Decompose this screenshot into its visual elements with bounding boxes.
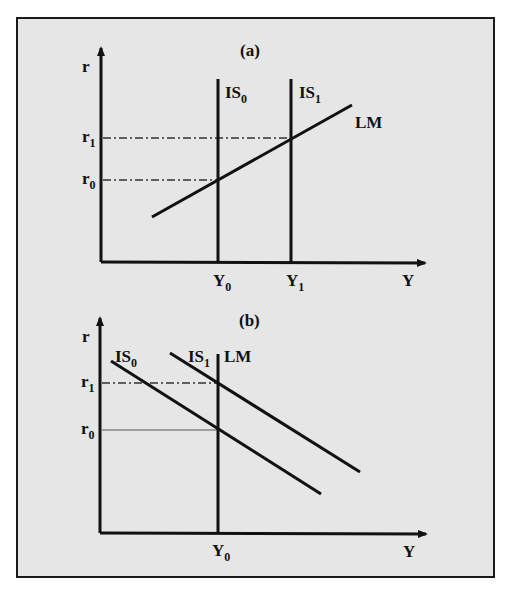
- panel-b-title: (b): [239, 311, 260, 330]
- panel-a-lm-curve: [152, 105, 352, 217]
- panel-a-x-axis: [101, 262, 425, 263]
- panel-b: (b) r Y IS0 IS1 LM r1 r0 Y0: [81, 311, 426, 564]
- panel-a-r1-label: r1: [82, 127, 96, 150]
- panel-a-y0-label: Y0: [213, 271, 231, 294]
- panel-b-is1-curve: [170, 353, 360, 472]
- panel-b-y-axis-label: r: [82, 327, 90, 346]
- panel-b-y0-label: Y0: [212, 541, 230, 564]
- panel-a-is0-label: IS0: [225, 83, 247, 106]
- panel-b-r1-label: r1: [81, 372, 95, 395]
- panel-b-lm-label: LM: [224, 347, 251, 366]
- panel-a-lm-label: LM: [355, 113, 382, 132]
- panel-a-y1-label: Y1: [286, 271, 304, 294]
- panel-b-r0-label: r0: [81, 419, 95, 442]
- panel-b-x-axis-label: Y: [403, 542, 415, 561]
- panel-a-is1-label: IS1: [299, 83, 321, 106]
- islm-diagram: (a) r Y IS0 IS1 LM r1 r0 Y0 Y1 (b) r Y: [0, 0, 509, 591]
- panel-a-y-axis-label: r: [82, 57, 90, 76]
- panel-a-r0-label: r0: [82, 169, 96, 192]
- panel-a-x-axis-label: Y: [402, 271, 414, 290]
- panel-a-title: (a): [240, 41, 260, 60]
- panel-b-x-axis: [100, 533, 426, 534]
- panel-a: (a) r Y IS0 IS1 LM r1 r0 Y0 Y1: [82, 41, 425, 294]
